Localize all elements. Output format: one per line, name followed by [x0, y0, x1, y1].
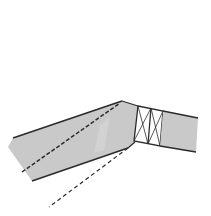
- section-diagram: [0, 0, 211, 216]
- diagram-canvas: [0, 0, 211, 216]
